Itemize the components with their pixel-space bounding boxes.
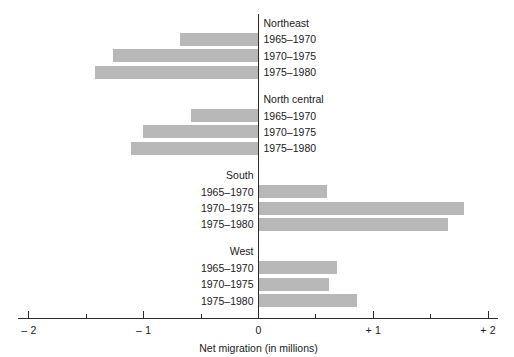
net-migration-bar-chart: – 2– 10+ 1+ 2Northeast1965–19701970–1975… xyxy=(0,0,514,357)
bar xyxy=(180,33,258,46)
row-label: 1970–1975 xyxy=(201,203,254,214)
x-axis-tick-minor xyxy=(86,314,87,318)
x-axis-line xyxy=(18,318,498,319)
bar xyxy=(259,202,464,215)
bar xyxy=(259,278,329,291)
bar xyxy=(113,49,259,62)
row-label: 1965–1970 xyxy=(264,111,317,122)
bar xyxy=(259,294,358,307)
group-label-west: West xyxy=(230,246,254,257)
bar xyxy=(143,125,259,138)
row-label: 1975–1980 xyxy=(264,67,317,78)
x-axis-tick-major xyxy=(143,311,144,318)
row-label: 1965–1970 xyxy=(264,34,317,45)
x-axis-tick-minor xyxy=(430,314,431,318)
row-label: 1970–1975 xyxy=(264,127,317,138)
x-axis-tick-minor xyxy=(201,314,202,318)
x-axis-tick-minor xyxy=(315,314,316,318)
group-label-northeast: Northeast xyxy=(264,18,310,29)
row-label: 1975–1980 xyxy=(201,219,254,230)
row-label: 1965–1970 xyxy=(201,187,254,198)
row-label: 1965–1970 xyxy=(201,263,254,274)
row-label: 1970–1975 xyxy=(264,51,317,62)
bar xyxy=(259,261,337,274)
x-axis-title: Net migration (in millions) xyxy=(199,342,317,354)
x-axis-tick-label: + 2 xyxy=(480,324,496,336)
row-label: 1970–1975 xyxy=(201,279,254,290)
x-axis-tick-major xyxy=(488,311,489,318)
bar xyxy=(259,218,448,231)
bar xyxy=(191,109,259,122)
group-label-north-central: North central xyxy=(264,94,324,105)
row-label: 1975–1980 xyxy=(201,296,254,307)
x-axis-tick-label: + 1 xyxy=(366,324,382,336)
x-axis-tick-major xyxy=(258,311,259,318)
bar xyxy=(131,142,258,155)
x-axis-tick-label: – 1 xyxy=(136,324,151,336)
bar xyxy=(259,185,328,198)
x-axis-tick-major xyxy=(373,311,374,318)
group-label-south: South xyxy=(226,170,253,181)
x-axis-tick-label: 0 xyxy=(255,324,261,336)
x-axis-tick-major xyxy=(28,311,29,318)
bar xyxy=(95,66,258,79)
row-label: 1975–1980 xyxy=(264,143,317,154)
x-axis-tick-label: – 2 xyxy=(21,324,36,336)
